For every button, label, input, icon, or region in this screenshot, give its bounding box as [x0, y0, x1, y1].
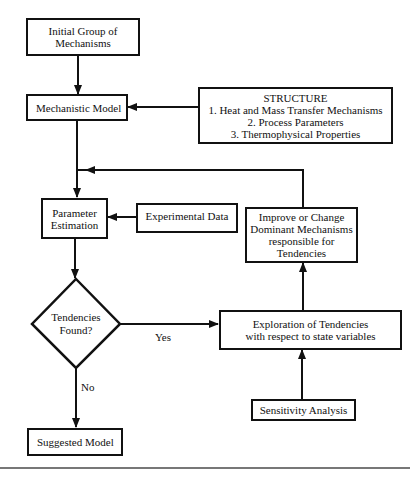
decision-label: Tendencies Found? — [36, 311, 116, 337]
exploration-line2: with respect to state variables — [245, 330, 375, 342]
node-improve-mechanisms: Improve or Change Dominant Mechanisms re… — [245, 207, 358, 263]
improve-line-3: responsible for — [269, 235, 335, 247]
improve-line-1: Improve or Change — [259, 211, 345, 223]
structure-title: STRUCTURE — [263, 92, 327, 104]
node-experimental-data-label: Experimental Data — [146, 210, 229, 222]
structure-item-3: 3. Thermophysical Properties — [231, 128, 361, 140]
structure-item-1: 1. Heat and Mass Transfer Mechanisms — [208, 104, 382, 116]
node-experimental-data: Experimental Data — [136, 203, 238, 233]
bottom-divider — [0, 467, 410, 469]
node-structure: STRUCTURE 1. Heat and Mass Transfer Mech… — [198, 87, 393, 144]
edge-label-yes: Yes — [155, 331, 171, 343]
edge-label-no: No — [81, 381, 94, 393]
improve-line-4: Tendencies — [277, 247, 326, 259]
node-initial-group-line1: Initial Group of — [48, 25, 117, 37]
structure-item-2: 2. Process Parameters — [247, 116, 343, 128]
node-exploration: Exploration of Tendencies with respect t… — [219, 310, 402, 350]
node-parameter-estimation-line1: Parameter — [52, 207, 97, 219]
node-initial-group-line2: Mechanisms — [55, 37, 111, 49]
node-parameter-estimation: Parameter Estimation — [41, 198, 108, 239]
node-suggested-model: Suggested Model — [27, 428, 123, 456]
node-mechanistic-model: Mechanistic Model — [26, 94, 128, 121]
node-initial-group: Initial Group of Mechanisms — [26, 18, 140, 56]
node-sensitivity-analysis: Sensitivity Analysis — [251, 399, 356, 421]
decision-line2: Found? — [36, 324, 116, 337]
node-parameter-estimation-line2: Estimation — [51, 219, 99, 231]
improve-line-2: Dominant Mechanisms — [250, 223, 352, 235]
node-mechanistic-model-label: Mechanistic Model — [36, 102, 121, 114]
exploration-line1: Exploration of Tendencies — [253, 318, 369, 330]
node-sensitivity-analysis-label: Sensitivity Analysis — [260, 404, 348, 416]
decision-line1: Tendencies — [36, 311, 116, 324]
node-suggested-model-label: Suggested Model — [37, 436, 114, 448]
